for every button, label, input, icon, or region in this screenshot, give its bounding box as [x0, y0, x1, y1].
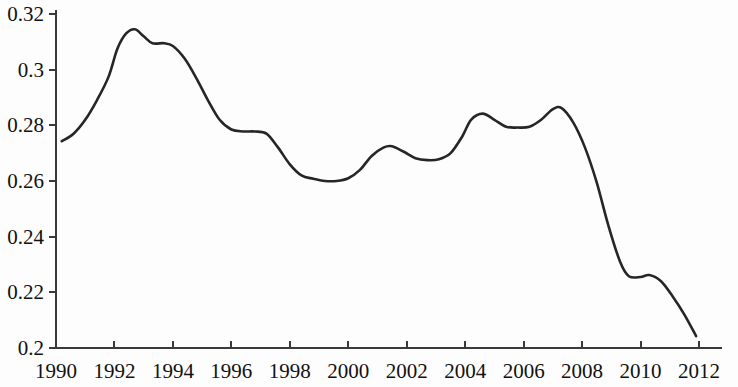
line-chart-figure: 0.20.220.240.260.280.30.32 1990199219941… [0, 0, 738, 387]
x-tick-label: 1994 [152, 359, 195, 383]
y-tick-label: 0.28 [7, 113, 44, 137]
x-tick-label: 1992 [93, 359, 135, 383]
x-tick-label: 2000 [327, 359, 369, 383]
x-tick-label: 2010 [620, 359, 662, 383]
y-tick-label: 0.26 [7, 169, 44, 193]
y-tick-label: 0.22 [7, 280, 44, 304]
x-tick-label: 2008 [561, 359, 603, 383]
x-tick-label: 1998 [269, 359, 311, 383]
chart-plot-area: 0.20.220.240.260.280.30.32 1990199219941… [0, 0, 738, 387]
x-tick-label: 1996 [210, 359, 252, 383]
y-tick-label: 0.2 [18, 336, 44, 360]
chart-background [0, 0, 738, 387]
x-tick-label: 2004 [444, 359, 487, 383]
y-tick-label: 0.3 [18, 58, 44, 82]
x-tick-label: 2012 [678, 359, 720, 383]
x-tick-label: 2006 [503, 359, 545, 383]
x-tick-label: 2002 [386, 359, 428, 383]
x-tick-label: 1990 [35, 359, 77, 383]
y-tick-label: 0.32 [7, 2, 44, 26]
y-tick-label: 0.24 [7, 225, 44, 249]
